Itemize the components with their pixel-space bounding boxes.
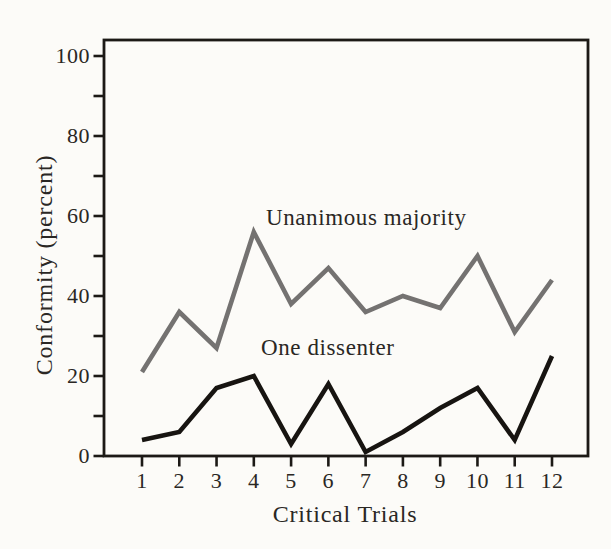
y-axis-title: Conformity (percent) (31, 155, 58, 376)
series-label-unanimous-majority: Unanimous majority (266, 205, 467, 231)
y-tick-label-20: 20 (30, 365, 90, 387)
x-tick-label-5: 5 (285, 470, 297, 492)
y-tick-label-60: 60 (30, 205, 90, 227)
chart-plot-area (0, 0, 611, 549)
series-label-one-dissenter: One dissenter (261, 335, 395, 361)
conformity-line-chart: Conformity (percent) Critical Trials Una… (0, 0, 611, 549)
x-tick-label-3: 3 (211, 470, 223, 492)
x-tick-label-11: 11 (504, 470, 526, 492)
x-tick-label-6: 6 (323, 470, 335, 492)
y-tick-label-80: 80 (30, 125, 90, 147)
x-tick-label-2: 2 (174, 470, 186, 492)
x-tick-label-4: 4 (248, 470, 260, 492)
y-tick-label-40: 40 (30, 285, 90, 307)
series-line-one-dissenter (142, 356, 552, 452)
x-tick-label-9: 9 (434, 470, 446, 492)
y-tick-label-0: 0 (30, 445, 90, 467)
x-tick-label-1: 1 (136, 470, 148, 492)
y-tick-label-100: 100 (30, 45, 90, 67)
x-tick-label-10: 10 (466, 470, 489, 492)
x-tick-label-8: 8 (397, 470, 409, 492)
x-tick-label-7: 7 (360, 470, 372, 492)
x-axis-title: Critical Trials (273, 501, 418, 528)
plot-border (104, 40, 588, 456)
x-tick-label-12: 12 (541, 470, 564, 492)
